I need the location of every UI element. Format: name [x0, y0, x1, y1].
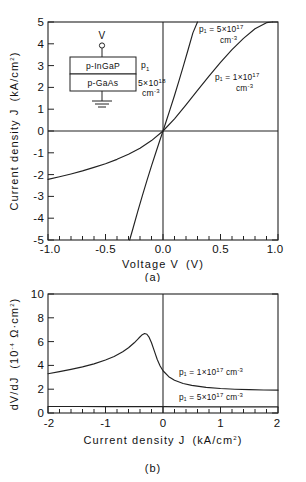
x-tick-label: -2 — [44, 417, 55, 429]
svg-text:Current density J(kA/cm2): Current density J(kA/cm2) — [8, 52, 20, 211]
y-tick-label: -2 — [33, 169, 44, 181]
inset-doping-value: 5×1018 — [138, 78, 166, 89]
curve-label-5e17-units: cm — [220, 35, 231, 45]
curve-label-5e17-b-tail: cm — [223, 392, 237, 402]
x-axis-label-main-a: Voltage V — [122, 258, 179, 270]
curve-label-5e17-units-sup: -3 — [231, 35, 237, 41]
curve-label-5e17-b-text: p₁ = 5×10 — [179, 392, 217, 402]
panel-b: 10 8 6 4 2 0 — [0, 272, 306, 482]
curve-label-5e17-a: p₁ = 5×1017 cm-3 — [199, 24, 244, 46]
curve-p1-1e17-a-full — [48, 22, 272, 179]
svg-text:Voltage V(V): Voltage V(V) — [122, 258, 204, 270]
x-tick-label: 1 — [217, 417, 224, 429]
curve-label-1e17-text: p₁ = 1×10 — [215, 72, 253, 82]
x-axis-label-unit-close-b: ) — [238, 434, 243, 446]
y-tick-label: -1 — [33, 147, 44, 159]
x-tick-label: 0 — [160, 417, 167, 429]
x-tick-label: 1.0 — [267, 243, 284, 255]
x-tick-label: 0.0 — [155, 243, 172, 255]
y-tick-labels-b: 10 8 6 4 2 0 — [31, 288, 45, 419]
y-tick-label: 4 — [37, 38, 44, 50]
inset-p1-subscript: 1 — [146, 66, 150, 72]
y-axis-label-main-a: Current density J — [8, 109, 20, 211]
y-tick-label: 8 — [37, 312, 44, 324]
y-tick-labels-a: 5 4 3 2 1 0 -1 -2 -3 -4 -5 — [33, 16, 44, 246]
inset-doping-exponent: 18 — [159, 78, 167, 84]
caption-b: (b) — [145, 462, 161, 474]
curve-label-1e17-a: p₁ = 1×1017 cm-3 — [215, 72, 260, 94]
y-tick-label: 6 — [37, 336, 44, 348]
curve-label-5e17-b-tail-sup: -3 — [237, 392, 243, 398]
x-tick-label: -1 — [100, 417, 111, 429]
curve-label-1e17-b-text: p₁ = 1×10 — [179, 367, 217, 377]
inset-doping-units: cm-3 — [142, 88, 160, 99]
svg-text:p₁ = 5×1017: p₁ = 5×1017 — [199, 24, 244, 35]
panel-a: 5 4 3 2 1 0 -1 -2 -3 -4 -5 — [0, 0, 306, 282]
y-tick-label: -4 — [33, 212, 44, 224]
curve-label-5e17-text: p₁ = 5×10 — [199, 24, 237, 34]
curve-label-5e17-sup: 17 — [236, 24, 244, 30]
x-tick-label: 2 — [274, 417, 281, 429]
y-tick-label: 3 — [37, 60, 44, 72]
panel-b-svg: 10 8 6 4 2 0 — [0, 272, 306, 482]
panel-a-svg: 5 4 3 2 1 0 -1 -2 -3 -4 -5 — [0, 0, 306, 282]
y-axis-label-b: dV/dJ(10-4 Ω·cm2) — [8, 298, 20, 411]
y-axis-label-unit-close-a: ) — [8, 52, 20, 57]
svg-text:cm-3: cm-3 — [236, 83, 254, 94]
svg-text:cm-3: cm-3 — [220, 35, 238, 46]
x-axis-label-main-b: Current density J — [84, 434, 186, 446]
curve-label-1e17-b-tail: cm — [223, 367, 237, 377]
y-tick-label: 5 — [37, 16, 44, 28]
y-axis-label-unit-close-b: ) — [8, 298, 20, 303]
y-tick-label: 2 — [37, 383, 44, 395]
inset-doping-units-exponent: -3 — [154, 88, 160, 94]
y-axis-label-main-b: dV/dJ — [8, 377, 20, 411]
x-axis-label-unit-a: (V) — [186, 258, 204, 270]
svg-text:p₁ = 1×1017: p₁ = 1×1017 — [215, 72, 260, 83]
y-axis-label-unit-a: (kA/cm — [8, 61, 20, 102]
inset-p1-label: p1 — [141, 60, 150, 72]
curve-label-1e17-units: cm — [236, 83, 247, 93]
x-axis-label-unit-b: (kA/cm — [192, 434, 233, 446]
inset-doping-mantissa: 5×10 — [138, 78, 159, 88]
svg-text:Current density J(kA/cm2): Current density J(kA/cm2) — [84, 434, 243, 446]
curve-label-5e17-b: p₁ = 5×1017 cm-3 — [179, 392, 244, 403]
x-tick-labels-b: -2 -1 0 1 2 — [44, 417, 281, 429]
curve-label-1e17-b-tail-sup: -3 — [237, 367, 243, 373]
ground-icon — [92, 101, 112, 107]
x-tick-labels-a: -1.0 -0.5 0.0 0.5 1.0 — [40, 243, 284, 255]
y-axis-label-unit-sup-b: -4 — [9, 342, 15, 350]
inset-terminal-node — [99, 43, 104, 48]
inset-terminal-label: V — [99, 30, 106, 41]
inset-layer-ingap-label: p-InGaP — [86, 61, 120, 71]
x-axis-label-a: Voltage V(V) — [122, 258, 204, 270]
x-axis-label-b: Current density J(kA/cm2) — [84, 434, 243, 446]
inset-device-diagram: V p-InGaP p-GaAs p1 — [70, 30, 166, 107]
y-tick-label: 10 — [31, 288, 44, 300]
curve-label-1e17-sup: 17 — [252, 72, 260, 78]
y-tick-label: 4 — [37, 359, 44, 371]
inset-doping-units-text: cm — [142, 88, 154, 98]
y-axis-label-unit-rest-b: Ω·cm — [8, 307, 20, 342]
y-tick-label: -3 — [33, 190, 44, 202]
y-axis-label-a: Current density J(kA/cm2) — [8, 52, 20, 211]
curve-label-1e17-units-sup: -3 — [247, 83, 253, 89]
y-axis-label-unit-open-b: (10 — [8, 350, 20, 369]
y-tick-label: 0 — [37, 125, 44, 137]
y-tick-label: 2 — [37, 81, 44, 93]
svg-text:dV/dJ(10-4 Ω·cm2): dV/dJ(10-4 Ω·cm2) — [8, 298, 20, 411]
curve-label-1e17-b: p₁ = 1×1017 cm-3 — [179, 367, 244, 378]
figure-root: 5 4 3 2 1 0 -1 -2 -3 -4 -5 — [0, 0, 306, 482]
inset-layer-gaas-label: p-GaAs — [88, 78, 119, 88]
x-tick-label: -1.0 — [40, 243, 61, 255]
x-tick-label: -0.5 — [95, 243, 116, 255]
y-tick-label: 1 — [37, 103, 44, 115]
x-tick-label: 0.5 — [212, 243, 229, 255]
